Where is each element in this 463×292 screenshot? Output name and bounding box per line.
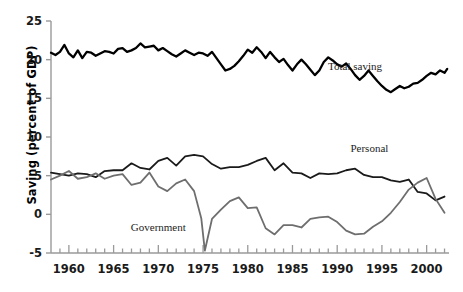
- y-tick-label: 5: [0, 169, 42, 183]
- y-tick-label: 0: [0, 207, 42, 221]
- y-tick-label: -5: [0, 246, 42, 260]
- axes-group: [51, 21, 449, 253]
- x-tick-label: 2000: [411, 262, 443, 276]
- y-tick-label: 25: [0, 14, 42, 28]
- x-tick-label: 1960: [53, 262, 85, 276]
- x-tick-label: 1970: [142, 262, 174, 276]
- y-tick-label: 15: [0, 91, 42, 105]
- x-tick-label: 1975: [187, 262, 219, 276]
- series-line-total-saving: [51, 43, 447, 92]
- x-tick-label: 1980: [232, 262, 264, 276]
- saving-percent-of-gdp-chart: Saving (percent of GDP) -50510152025 196…: [0, 0, 463, 292]
- series-label-personal: Personal: [350, 142, 388, 154]
- x-tick-label: 1965: [98, 262, 130, 276]
- x-tick-label: 1990: [321, 262, 353, 276]
- x-axis-minor-ticks: [60, 245, 445, 253]
- series-label-government: Government: [131, 221, 186, 233]
- y-tick-label: 20: [0, 53, 42, 67]
- chart-plot-area: [0, 0, 463, 292]
- x-tick-label: 1995: [366, 262, 398, 276]
- y-tick-label: 10: [0, 130, 42, 144]
- series-label-total-saving: Total saving: [328, 60, 382, 72]
- y-axis-title: Saving (percent of GDP): [25, 15, 39, 235]
- x-tick-label: 1985: [276, 262, 308, 276]
- y-axis-ticks: [46, 21, 51, 253]
- series-line-government: [51, 171, 445, 251]
